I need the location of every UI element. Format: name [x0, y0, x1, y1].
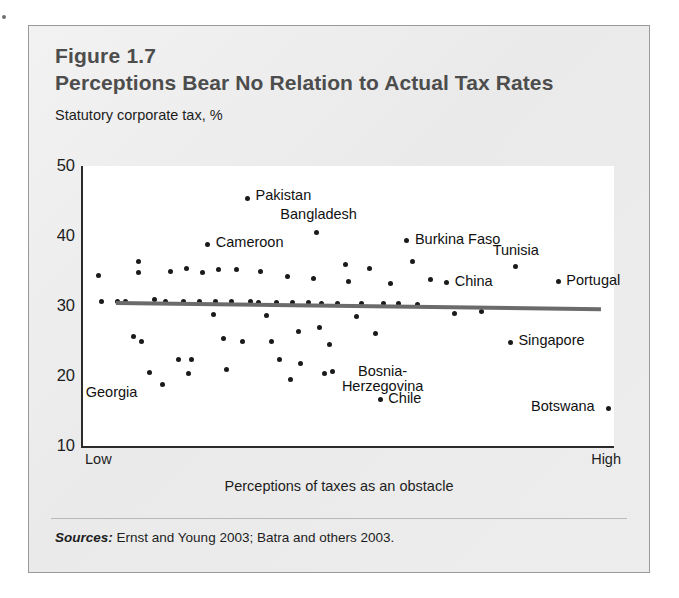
scatter-point [240, 339, 245, 344]
point-label: Burkina Faso [415, 232, 500, 247]
source-note: Sources: Ernst and Young 2003; Batra and… [55, 530, 394, 545]
scatter-point-labeled [147, 370, 152, 375]
scatter-point [136, 259, 141, 264]
figure-number: Figure 1.7 [55, 44, 156, 68]
scatter-point-labeled [245, 196, 250, 201]
scatter-point [211, 312, 216, 317]
y-axis-line [81, 166, 83, 448]
y-tick-label: 20 [57, 366, 75, 385]
point-label: Bosnia- Herzegovina [335, 364, 431, 394]
source-lead: Sources: [55, 530, 113, 545]
x-axis-title: Perceptions of taxes as an obstacle [29, 478, 649, 494]
scatter-point [216, 267, 221, 272]
figure-title: Perceptions Bear No Relation to Actual T… [55, 71, 553, 95]
scatter-point [343, 262, 348, 267]
x-axis-low-label: Low [85, 451, 112, 467]
scatter-point-labeled [556, 279, 561, 284]
scatter-point [354, 314, 359, 319]
scatter-point-labeled [606, 406, 611, 411]
scatter-point-labeled [508, 340, 513, 345]
figure-frame: Figure 1.7 Perceptions Bear No Relation … [28, 25, 650, 573]
scatter-point [479, 309, 484, 314]
figure-inner: Figure 1.7 Perceptions Bear No Relation … [29, 26, 649, 572]
x-axis-line [81, 446, 614, 448]
y-axis-title: Statutory corporate tax, % [55, 107, 223, 123]
scatter-point [168, 269, 173, 274]
plot-wrapper: 1020304050 PakistanBangladeshCameroonBur… [83, 166, 614, 446]
point-label: Cameroon [216, 235, 284, 250]
scatter-point [373, 331, 378, 336]
point-label: Botswana [531, 399, 595, 414]
point-label: Georgia [86, 385, 138, 400]
point-label: Pakistan [256, 188, 312, 203]
x-axis-high-label: High [591, 451, 621, 467]
point-label: Singapore [518, 333, 584, 348]
page-speck [2, 15, 6, 19]
point-label: Tunisia [493, 243, 539, 258]
point-label: Portugal [566, 273, 620, 288]
point-label: Bangladesh [280, 207, 357, 222]
y-tick-label: 30 [57, 296, 75, 315]
scatter-point [296, 329, 301, 334]
scatter-point [288, 377, 293, 382]
scatter-point [285, 274, 290, 279]
scatter-point-labeled [322, 371, 327, 376]
scatter-point [346, 279, 351, 284]
point-label: China [455, 274, 493, 289]
source-text: Ernst and Young 2003; Batra and others 2… [117, 530, 395, 545]
scatter-point [200, 270, 205, 275]
y-tick-label: 10 [57, 436, 75, 455]
y-tick-label: 50 [57, 156, 75, 175]
scatter-point [317, 325, 322, 330]
source-divider [51, 518, 627, 519]
y-tick-label: 40 [57, 226, 75, 245]
